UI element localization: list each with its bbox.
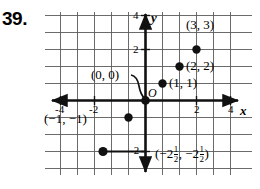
point-3-3 (192, 45, 200, 53)
point-label-neg1-neg1: (−1, −1) (44, 112, 87, 125)
y-tick-label-2: 2 (133, 44, 139, 55)
y-axis-label: y (151, 10, 157, 26)
origin-label: O (148, 86, 157, 101)
x-tick-label-neg4: -4 (55, 104, 64, 115)
coordinate-plane-graph (0, 0, 260, 189)
point-label-1-1: (1, 1) (169, 76, 197, 89)
comma: , (179, 146, 182, 161)
paren-close: ) (205, 146, 209, 161)
figure-root: 39. (0, 0, 260, 189)
minus-2: − (185, 146, 192, 161)
fraction-half-2: 12 (200, 145, 205, 164)
point-1-1 (158, 79, 166, 87)
x-axis-label: x (240, 103, 247, 119)
whole-2: 2 (193, 146, 200, 161)
origin-leader-line (131, 75, 145, 99)
whole-1: 2 (167, 146, 174, 161)
axis-lines (52, 14, 238, 172)
point-label-3-3: (3, 3) (186, 18, 214, 31)
point-label-neg2half: (−212, −212) (155, 145, 209, 164)
fraction-half-1: 12 (174, 145, 179, 164)
x-tick-label-4: 4 (228, 104, 234, 115)
point-label-2-2: (2, 2) (186, 59, 214, 72)
point-neg2half (98, 147, 107, 156)
minus-1: − (159, 146, 166, 161)
point-label-0-0: (0, 0) (91, 68, 119, 81)
y-tick-label-neg2: -2 (130, 145, 139, 156)
x-tick-label-neg2: -2 (89, 104, 98, 115)
point-neg1-neg1 (124, 113, 132, 121)
point-2-2 (175, 62, 183, 70)
x-tick-label-2: 2 (194, 104, 200, 115)
y-tick-label-4: 4 (133, 10, 139, 21)
